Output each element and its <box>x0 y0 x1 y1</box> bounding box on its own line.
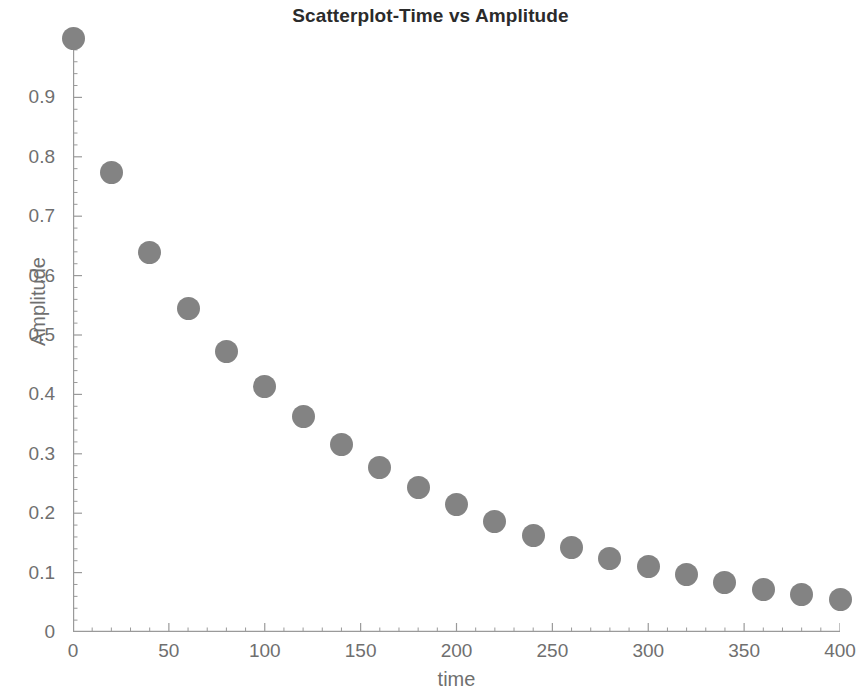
y-tick-label: 0.2 <box>29 502 64 524</box>
x-tick-label: 50 <box>158 640 179 662</box>
data-point <box>138 241 161 264</box>
scatterplot-figure: Scatterplot-Time vs Amplitude 00.10.20.3… <box>0 0 861 695</box>
y-tick-label: 0.1 <box>29 562 64 584</box>
x-tick-label: 150 <box>345 640 377 662</box>
y-tick-label: 0.4 <box>29 383 64 405</box>
x-tick-label: 100 <box>249 640 281 662</box>
data-point <box>522 524 545 547</box>
y-tick-label: 0.3 <box>29 443 64 465</box>
data-point <box>637 555 660 578</box>
x-tick-label: 200 <box>441 640 473 662</box>
data-point <box>407 476 430 499</box>
data-point <box>713 571 736 594</box>
x-tick-label: 0 <box>68 640 79 662</box>
y-tick-label: 0.8 <box>29 146 64 168</box>
data-point <box>829 588 852 611</box>
y-tick-label: 0.7 <box>29 205 64 227</box>
axes-lines <box>73 38 840 632</box>
data-point <box>215 340 238 363</box>
plot-area <box>73 38 840 632</box>
data-point <box>752 578 775 601</box>
x-tick-label: 300 <box>632 640 664 662</box>
x-tick-label: 400 <box>824 640 856 662</box>
x-axis-label: time <box>73 668 840 691</box>
y-tick-label: 0 <box>44 621 64 643</box>
x-tick-label: 350 <box>728 640 760 662</box>
y-axis-label: Amplitude <box>27 242 50 362</box>
data-point <box>62 27 85 50</box>
data-point <box>253 375 276 398</box>
chart-title: Scatterplot-Time vs Amplitude <box>0 5 861 27</box>
data-point <box>675 563 698 586</box>
data-point <box>292 405 315 428</box>
y-tick-label: 0.9 <box>29 86 64 108</box>
data-point <box>177 297 200 320</box>
x-tick-label: 250 <box>537 640 569 662</box>
x-axis-tick-labels: 050100150200250300350400 <box>73 640 840 666</box>
